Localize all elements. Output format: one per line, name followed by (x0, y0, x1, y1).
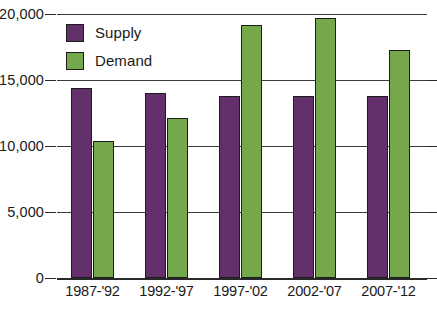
bar-supply (293, 96, 314, 278)
bar-chart: 20,00015,00010,0005,0000 1987-'921992-'9… (0, 0, 437, 317)
bar-supply (145, 93, 166, 278)
legend-label: Supply (95, 24, 141, 41)
bar-demand (167, 118, 188, 278)
bar-demand (389, 50, 410, 278)
x-axis-labels: 1987-'921992-'971997-'022002-'072007-'12 (57, 283, 427, 307)
bar-supply (219, 96, 240, 278)
x-axis-tick-label: 1997-'02 (213, 283, 267, 299)
y-axis-tick-right (427, 80, 437, 81)
y-axis-tick-right (427, 278, 437, 279)
y-axis-tick (45, 212, 56, 213)
x-axis-tick-label: 2007-'12 (361, 283, 415, 299)
y-axis-tick-right (427, 146, 437, 147)
y-axis-tick-label: 5,000 (7, 204, 44, 220)
legend-swatch-demand (66, 52, 84, 70)
bar-group (293, 14, 336, 278)
legend-item-demand: Demand (66, 48, 152, 73)
y-axis-tick-label: 15,000 (0, 72, 44, 88)
bar-demand (93, 141, 114, 278)
x-axis-tick-label: 2002-'07 (287, 283, 341, 299)
legend-label: Demand (95, 52, 152, 69)
legend-swatch-supply (66, 24, 84, 42)
y-axis-tick-label: 20,000 (0, 6, 44, 22)
y-axis-tick (45, 146, 56, 147)
bar-group (367, 14, 410, 278)
y-axis-labels: 20,00015,00010,0005,0000 (0, 14, 44, 278)
legend-item-supply: Supply (66, 20, 152, 45)
bar-demand (241, 25, 262, 278)
y-axis-tick (45, 278, 56, 279)
x-axis-tick-label: 1992-'97 (139, 283, 193, 299)
y-axis-tick (45, 80, 56, 81)
y-axis-tick-label: 0 (36, 270, 44, 286)
y-axis-tick-label: 10,000 (0, 138, 44, 154)
bar-supply (71, 88, 92, 278)
chart-legend: SupplyDemand (66, 20, 152, 76)
bar-supply (367, 96, 388, 278)
x-axis-tick-label: 1987-'92 (65, 283, 119, 299)
bar-group (219, 14, 262, 278)
y-axis-tick-right (427, 212, 437, 213)
bar-demand (315, 18, 336, 278)
y-axis-tick (45, 14, 56, 15)
gridline (57, 278, 427, 280)
